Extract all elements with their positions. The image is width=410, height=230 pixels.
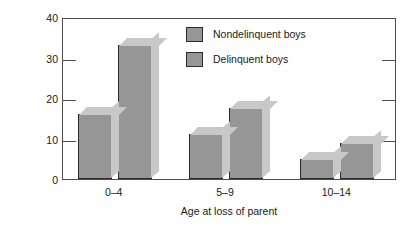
bar-face [341, 144, 373, 178]
bar-shadow-top [79, 107, 127, 115]
bar-shadow-side [151, 33, 159, 178]
bar [300, 159, 334, 179]
chart-legend: Nondelinquent boysDelinquent boys [186, 26, 306, 76]
bar-face [119, 46, 151, 178]
legend-swatch [186, 52, 203, 67]
y-tick-mark-left [63, 141, 76, 142]
bar-shadow-top [341, 136, 389, 144]
y-tick-label: 20 [18, 93, 58, 105]
bar-shadow-top [230, 101, 278, 109]
legend-label: Delinquent boys [213, 53, 288, 65]
bar-shadow-top [119, 38, 167, 46]
y-tick-label: 10 [18, 134, 58, 146]
bar [340, 143, 374, 179]
legend-item: Delinquent boys [186, 51, 306, 67]
bar-face [301, 160, 333, 178]
bar-face [79, 115, 111, 178]
bar-face [230, 109, 262, 178]
y-tick-mark-left [63, 100, 76, 101]
y-tick-mark-left [63, 60, 76, 61]
x-axis-title: Age at loss of parent [62, 205, 396, 217]
bar [229, 108, 263, 179]
y-tick-mark-right [382, 100, 395, 101]
bar-chart-figure: Percentage of homes where a parent was a… [0, 0, 410, 230]
x-tick-label: 10–14 [322, 186, 351, 198]
legend-item: Nondelinquent boys [186, 26, 306, 42]
legend-label: Nondelinquent boys [213, 28, 306, 40]
y-tick-mark-right [382, 60, 395, 61]
bar [189, 134, 223, 179]
y-axis-tick-labels: 010203040 [18, 0, 58, 230]
y-tick-label: 40 [18, 12, 58, 24]
x-tick-label: 0–4 [105, 186, 123, 198]
bar [78, 114, 112, 179]
bar-shadow-top [301, 152, 349, 160]
legend-swatch [186, 27, 203, 42]
y-tick-label: 0 [18, 174, 58, 186]
bar-face [190, 135, 222, 178]
y-tick-label: 30 [18, 53, 58, 65]
x-tick-label: 5–9 [216, 186, 234, 198]
bar [118, 45, 152, 179]
